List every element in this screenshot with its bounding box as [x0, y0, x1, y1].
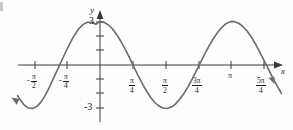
coordinate-plot [0, 0, 293, 130]
x-tick-label-pi-over-4: π 4 [129, 70, 135, 94]
x-tick-label-5pi-over-4: 5π 4 [256, 70, 266, 94]
pi-symbol: π [228, 71, 232, 80]
curve-left-arrow-icon [12, 98, 20, 105]
numerator: 3π [192, 77, 202, 86]
numerator: 5π [256, 77, 266, 86]
numerator: π [129, 77, 135, 86]
x-axis-label: x [281, 67, 285, 76]
x-tick-label-pi-over-2: π 2 [162, 70, 168, 94]
y-tick-label-3: 3 [89, 16, 94, 26]
numerator: π [162, 77, 168, 86]
denominator: 4 [63, 82, 69, 90]
minus-sign: − [58, 77, 63, 85]
x-tick-label-minus-pi-over-2: − π 2 [26, 70, 37, 90]
denominator: 4 [194, 86, 200, 94]
y-tick-label-minus-3: -3 [84, 102, 92, 112]
denominator: 2 [162, 86, 168, 94]
x-tick-label-3pi-over-4: 3π 4 [192, 70, 202, 94]
denominator: 2 [31, 82, 37, 90]
denominator: 4 [129, 86, 135, 94]
minus-sign: − [26, 77, 31, 85]
graph-figure: y x 3 -3 − π 2 − π 4 π 4 [0, 0, 293, 130]
x-tick-label-pi: π [228, 72, 232, 80]
y-axis-arrow-icon [97, 10, 104, 19]
curve-right-arrow-icon [269, 77, 275, 85]
denominator: 4 [258, 86, 264, 94]
x-tick-label-minus-pi-over-4: − π 4 [58, 70, 69, 90]
y-axis-label: y [90, 6, 94, 15]
